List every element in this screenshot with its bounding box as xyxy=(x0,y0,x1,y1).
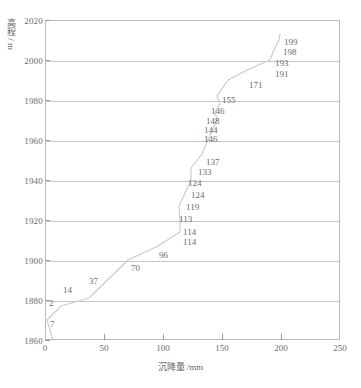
x-tick-mark-200 xyxy=(281,334,282,340)
x-tick-label-250: 250 xyxy=(320,344,360,353)
data-point-label: 137 xyxy=(206,158,220,167)
data-point-label: 199 xyxy=(284,38,298,47)
data-point-label: 37 xyxy=(89,277,98,286)
x-tick-label-0: 0 xyxy=(25,344,65,353)
data-point-label: 148 xyxy=(206,117,220,126)
x-tick-label-150: 150 xyxy=(202,344,242,353)
x-tick-mark-150 xyxy=(222,334,223,340)
data-point-label: 114 xyxy=(183,228,196,237)
x-tick-mark-100 xyxy=(163,334,164,340)
data-point-label: 119 xyxy=(186,203,199,212)
data-point-label: 155 xyxy=(222,96,236,105)
data-point-label: 124 xyxy=(191,191,205,200)
data-point-label: 193 xyxy=(275,59,289,68)
y-tick-mark-1960 xyxy=(45,140,50,141)
data-point-label: 2 xyxy=(49,299,54,308)
y-tick-label-1980: 1980 xyxy=(9,97,43,106)
data-point-label: 144 xyxy=(204,126,218,135)
y-tick-label-1900: 1900 xyxy=(9,257,43,266)
data-point-label: 133 xyxy=(198,168,212,177)
data-point-label: 198 xyxy=(283,48,297,57)
data-point-label: 7 xyxy=(50,320,55,329)
x-tick-mark-50 xyxy=(104,334,105,340)
y-tick-label-1920: 1920 xyxy=(9,217,43,226)
y-tick-label-1940: 1940 xyxy=(9,177,43,186)
y-tick-label-1960: 1960 xyxy=(9,137,43,146)
data-point-label: 70 xyxy=(131,264,140,273)
y-tick-label-1880: 1880 xyxy=(9,297,43,306)
data-point-label: 113 xyxy=(179,215,192,224)
y-tick-mark-1920 xyxy=(45,220,50,221)
settlement-elevation-chart: 高程 / m 2020 2000 1980 1960 1940 1920 190… xyxy=(0,0,361,388)
y-tick-label-2020: 2020 xyxy=(9,17,43,26)
data-point-label: 114 xyxy=(183,238,196,247)
data-point-label: 14 xyxy=(63,286,72,295)
data-point-label: 191 xyxy=(275,70,289,79)
y-tick-mark-2020 xyxy=(45,20,50,21)
y-tick-mark-1860 xyxy=(45,340,50,341)
x-axis-title: 沉降量 /mm xyxy=(0,360,361,373)
data-point-label: 124 xyxy=(188,179,202,188)
data-point-label: 96 xyxy=(159,251,168,260)
x-tick-label-100: 100 xyxy=(143,344,183,353)
data-point-label: 146 xyxy=(204,135,218,144)
x-tick-label-200: 200 xyxy=(261,344,301,353)
data-point-label: 146 xyxy=(211,107,225,116)
y-tick-label-2000: 2000 xyxy=(9,57,43,66)
data-point-label: 171 xyxy=(249,81,263,90)
y-tick-mark-2000 xyxy=(45,60,50,61)
y-tick-mark-1980 xyxy=(45,100,50,101)
x-tick-label-50: 50 xyxy=(84,344,124,353)
y-tick-mark-1900 xyxy=(45,260,50,261)
y-tick-mark-1940 xyxy=(45,180,50,181)
